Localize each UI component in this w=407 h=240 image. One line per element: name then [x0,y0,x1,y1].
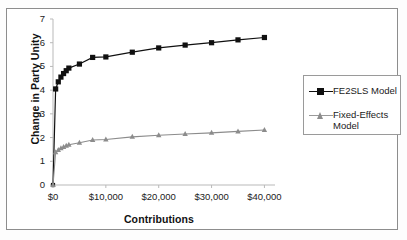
legend-label-fe2sls: FE2SLS Model [333,85,397,96]
y-tick-label: 0 [29,179,45,190]
legend-item-fixed-effects: Fixed-Effects Model [309,109,397,131]
x-tick-label: $20,000 [129,191,189,202]
y-tick-label: 4 [29,84,45,95]
y-tick-label: 5 [29,60,45,71]
x-tick-label: $0 [23,191,83,202]
chart-legend: FE2SLS Model Fixed-Effects Model [303,75,401,135]
x-tick-label: $30,000 [182,191,242,202]
y-tick-label: 7 [29,13,45,24]
y-tick-label: 6 [29,37,45,48]
y-tick-label: 2 [29,132,45,143]
legend-item-fe2sls: FE2SLS Model [309,85,397,97]
legend-label-fixed-effects: Fixed-Effects Model [333,109,397,131]
chart-frame: Change in Party Unity Contributions FE2S… [6,8,398,230]
x-tick-label: $10,000 [76,191,136,202]
legend-swatch-triangle-icon [309,110,333,121]
y-tick-label: 1 [29,155,45,166]
y-tick-label: 3 [29,108,45,119]
x-tick-label: $40,000 [234,191,294,202]
chart-figure: Change in Party Unity Contributions FE2S… [0,0,407,240]
legend-swatch-square-icon [309,86,333,97]
